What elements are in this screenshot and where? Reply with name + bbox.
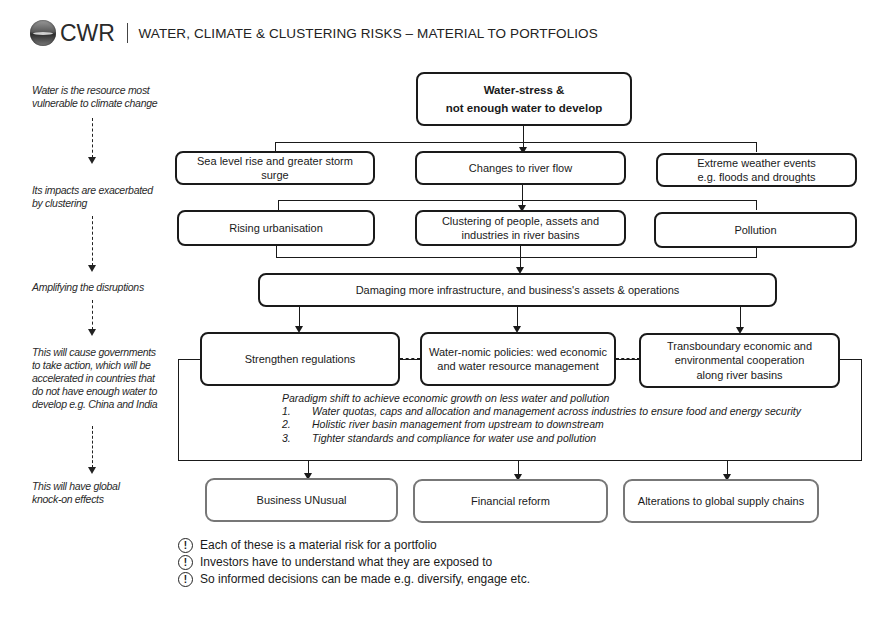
side-note-1: Water is the resource most vulnerable to… xyxy=(32,84,157,110)
connector-line xyxy=(276,257,757,258)
takeaway-text: Each of these is a material risk for a p… xyxy=(200,537,437,554)
side-note-line: develop e.g. China and India xyxy=(32,398,157,411)
takeaway-list: ! Each of these is a material risk for a… xyxy=(178,537,530,588)
policy-heading: Paradigm shift to achieve economic growt… xyxy=(282,392,609,405)
box-line: environmental cooperation xyxy=(667,353,812,368)
dashed-arrow-down-icon xyxy=(92,216,93,266)
connector-line xyxy=(275,142,757,143)
box-line: Changes to river flow xyxy=(469,161,572,176)
arrow-down-icon xyxy=(520,246,521,272)
connector-line xyxy=(756,248,757,257)
policy-list: 1. Water quotas, caps and allocation and… xyxy=(282,405,801,445)
effect-box-supply-chains: Alterations to global supply chains xyxy=(623,479,819,523)
side-note-3: Amplifying the disruptions xyxy=(32,281,144,294)
box-line: Water-nomic policies: wed economic xyxy=(429,345,607,360)
side-note-line: Its impacts are exacerbated xyxy=(32,184,153,197)
side-note-line: Amplifying the disruptions xyxy=(32,281,144,294)
action-box-transboundary: Transboundary economic and environmental… xyxy=(639,333,840,388)
connector-line xyxy=(756,200,757,210)
box-line: Alterations to global supply chains xyxy=(638,494,804,509)
box-line: and water resource management xyxy=(429,359,607,374)
box-line: Financial reform xyxy=(471,494,550,509)
box-line: Extreme weather events xyxy=(697,156,816,171)
policy-item: 2. Holistic river basin management from … xyxy=(282,418,801,431)
globe-water-icon xyxy=(30,20,56,46)
policy-item-text: Holistic river basin management from ups… xyxy=(312,418,604,431)
box-line: Rising urbanisation xyxy=(229,221,323,236)
dashed-arrow-down-icon xyxy=(92,118,93,158)
box-line: Damaging more infrastructure, and busine… xyxy=(356,283,680,298)
side-note-line: This will have global xyxy=(32,480,120,493)
effect-box-business-unusual: Business UNusual xyxy=(205,478,398,522)
policy-item-number: 3. xyxy=(282,432,312,445)
box-line: not enough water to develop xyxy=(446,99,603,117)
side-note-line: This will cause governments xyxy=(32,346,157,359)
connector-line xyxy=(756,142,757,152)
exclamation-circle-icon: ! xyxy=(178,538,193,553)
connector-line xyxy=(522,185,523,200)
box-line: Strengthen regulations xyxy=(245,352,356,367)
impact-box-river-flow: Changes to river flow xyxy=(415,151,626,185)
policy-item: 1. Water quotas, caps and allocation and… xyxy=(282,405,801,418)
takeaway-text: So informed decisions can be made e.g. d… xyxy=(200,571,530,588)
header-separator xyxy=(127,23,129,43)
arrow-down-icon xyxy=(518,461,519,479)
box-line: e.g. floods and droughts xyxy=(697,170,816,185)
connector-line xyxy=(276,246,277,257)
damage-box: Damaging more infrastructure, and busine… xyxy=(258,273,777,307)
connector-line xyxy=(523,126,524,142)
dashed-arrow-down-icon xyxy=(92,300,93,330)
side-note-5: This will have global knock-on effects xyxy=(32,480,120,506)
box-line: along river basins xyxy=(667,368,812,383)
arrow-down-icon xyxy=(308,461,309,478)
connector-line xyxy=(278,200,279,210)
cluster-box-urbanisation: Rising urbanisation xyxy=(177,210,375,246)
policy-item-text: Water quotas, caps and allocation and ma… xyxy=(312,405,801,418)
side-note-line: accelerated in countries that xyxy=(32,372,157,385)
side-note-line: vulnerable to climate change xyxy=(32,97,157,110)
cluster-box-pollution: Pollution xyxy=(654,212,857,248)
box-line: Pollution xyxy=(734,223,776,238)
box-line: surge xyxy=(197,168,353,183)
cluster-box-people-assets: Clustering of people, assets and industr… xyxy=(415,210,626,246)
arrow-down-icon xyxy=(299,307,300,331)
dashed-link xyxy=(400,358,420,359)
box-line: Transboundary economic and xyxy=(667,339,812,354)
page-title: WATER, CLIMATE & CLUSTERING RISKS – MATE… xyxy=(138,26,597,41)
box-line: Water-stress & xyxy=(446,81,603,99)
takeaway-item: ! Investors have to understand what they… xyxy=(178,554,530,571)
dashed-arrow-down-icon xyxy=(92,426,93,468)
connector-line xyxy=(278,200,757,201)
side-note-line: by clustering xyxy=(32,197,153,210)
policy-heading-text: Paradigm shift to achieve economic growt… xyxy=(282,392,609,405)
arrow-down-icon xyxy=(517,307,518,331)
policy-item-text: Tighter standards and compliance for wat… xyxy=(312,432,596,445)
exclamation-circle-icon: ! xyxy=(178,555,193,570)
takeaway-item: ! So informed decisions can be made e.g.… xyxy=(178,571,530,588)
header: CWR WATER, CLIMATE & CLUSTERING RISKS – … xyxy=(30,18,598,48)
side-note-line: Water is the resource most xyxy=(32,84,157,97)
brand-logo-text: CWR xyxy=(60,20,115,47)
arrow-down-icon xyxy=(727,461,728,479)
policy-item: 3. Tighter standards and compliance for … xyxy=(282,432,801,445)
policy-item-number: 2. xyxy=(282,418,312,431)
dashed-link xyxy=(616,358,640,359)
box-line: Sea level rise and greater storm xyxy=(197,154,353,169)
action-box-regulations: Strengthen regulations xyxy=(200,332,400,386)
impact-box-sea-level: Sea level rise and greater storm surge xyxy=(175,151,375,185)
exclamation-circle-icon: ! xyxy=(178,572,193,587)
takeaway-item: ! Each of these is a material risk for a… xyxy=(178,537,530,554)
box-line: Business UNusual xyxy=(257,493,347,508)
side-note-4: This will cause governments to take acti… xyxy=(32,346,157,411)
side-note-line: do not have enough water to xyxy=(32,385,157,398)
effect-box-financial-reform: Financial reform xyxy=(413,479,608,523)
policy-item-number: 1. xyxy=(282,405,312,418)
arrow-down-icon xyxy=(522,200,523,210)
root-box-water-stress: Water-stress & not enough water to devel… xyxy=(416,72,632,126)
action-box-water-nomic: Water-nomic policies: wed economic and w… xyxy=(420,332,616,386)
takeaway-text: Investors have to understand what they a… xyxy=(200,554,492,571)
side-note-line: to take action, which will be xyxy=(32,359,157,372)
side-note-2: Its impacts are exacerbated by clusterin… xyxy=(32,184,153,210)
impact-box-extreme-weather: Extreme weather events e.g. floods and d… xyxy=(656,153,857,187)
box-line: Clustering of people, assets and xyxy=(442,214,599,229)
